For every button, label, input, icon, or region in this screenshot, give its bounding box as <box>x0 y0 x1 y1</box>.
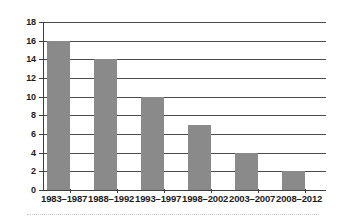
grid-line-12 <box>44 78 326 79</box>
y-tick-label-10: 10 <box>6 93 36 102</box>
y-tick-mark-0 <box>39 190 43 191</box>
y-tick-label-4: 4 <box>6 149 36 158</box>
bottom-dotted-rule <box>27 214 319 216</box>
grid-line-4 <box>44 153 326 154</box>
bar-1988-1992 <box>94 59 117 190</box>
y-tick-label-6: 6 <box>6 130 36 139</box>
y-tick-mark-2 <box>39 171 43 172</box>
y-tick-label-12: 12 <box>6 74 36 83</box>
y-tick-mark-10 <box>39 97 43 98</box>
grid-line-10 <box>44 97 326 98</box>
y-tick-label-18: 18 <box>6 18 36 27</box>
y-tick-mark-12 <box>39 78 43 79</box>
grid-line-8 <box>44 115 326 116</box>
x-tick-label-2003-2007: 2003–2007 <box>229 193 275 204</box>
grid-line-6 <box>44 134 326 135</box>
x-axis-tick-labels: 1983–1987 1988–1992 1993–1997 1998–2002 … <box>40 193 336 207</box>
y-tick-mark-8 <box>39 115 43 116</box>
y-tick-mark-16 <box>39 41 43 42</box>
x-tick-label-1993-1997: 1993–1997 <box>135 193 181 204</box>
y-tick-mark-14 <box>39 59 43 60</box>
bar-2008-2012 <box>282 171 305 190</box>
grid-line-0-baseline <box>44 190 326 191</box>
bar-chart-figure: 18 16 14 12 10 8 6 4 2 0 <box>0 0 345 222</box>
x-tick-label-1998-2002: 1998–2002 <box>182 193 228 204</box>
y-tick-label-16: 16 <box>6 37 36 46</box>
x-tick-label-1988-1992: 1988–1992 <box>88 193 134 204</box>
grid-line-16 <box>44 41 326 42</box>
y-tick-mark-6 <box>39 134 43 135</box>
y-tick-label-0: 0 <box>6 186 36 195</box>
bar-1998-2002 <box>188 125 211 190</box>
y-tick-label-14: 14 <box>6 55 36 64</box>
y-tick-mark-4 <box>39 153 43 154</box>
plot-area <box>44 22 326 190</box>
y-tick-label-8: 8 <box>6 111 36 120</box>
bar-2003-2007 <box>235 153 258 190</box>
bar-1983-1987 <box>47 41 70 190</box>
bar-1993-1997 <box>141 97 164 190</box>
grid-line-14 <box>44 59 326 60</box>
y-tick-label-2: 2 <box>6 167 36 176</box>
x-tick-label-2008-2012: 2008–2012 <box>276 193 322 204</box>
grid-line-18 <box>44 22 326 23</box>
y-tick-mark-18 <box>39 22 43 23</box>
x-tick-label-1983-1987: 1983–1987 <box>41 193 87 204</box>
